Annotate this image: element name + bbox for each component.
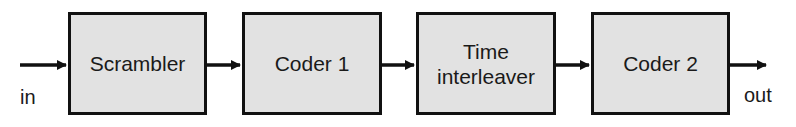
- time-interleaver-line2: interleaver: [437, 64, 535, 89]
- coder2-block-label: Coder 2: [623, 51, 698, 76]
- coder2-block: Coder 2: [591, 12, 730, 115]
- input-label: in: [20, 86, 36, 109]
- time-interleaver-line1: Time: [463, 39, 509, 64]
- scrambler-block-label: Scrambler: [90, 51, 186, 76]
- output-label: out: [744, 84, 772, 107]
- coder1-block-label: Coder 1: [275, 51, 350, 76]
- scrambler-block: Scrambler: [68, 12, 207, 115]
- coder1-block: Coder 1: [242, 12, 382, 115]
- time-interleaver-block: Time interleaver: [416, 12, 556, 115]
